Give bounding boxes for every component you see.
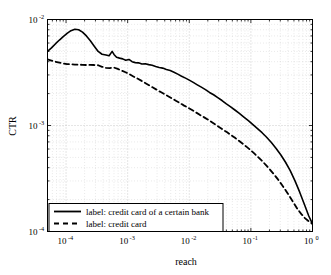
- svg-text:-4: -4: [68, 234, 74, 241]
- svg-text:10: 10: [29, 15, 39, 25]
- y-axis-title: CTR: [7, 116, 18, 136]
- svg-text:10: 10: [58, 236, 68, 246]
- legend-label-0: label: credit card of a certain bank: [86, 207, 209, 217]
- svg-text:-1: -1: [253, 234, 258, 241]
- figure-background: [0, 0, 331, 275]
- chart-legend: label: credit card of a certain bank lab…: [49, 204, 223, 232]
- svg-text:10: 10: [119, 236, 129, 246]
- svg-text:-3: -3: [39, 119, 44, 126]
- svg-text:10: 10: [304, 236, 314, 246]
- svg-text:CTR: CTR: [7, 116, 18, 136]
- legend-label-1: label: credit card: [86, 219, 147, 229]
- svg-text:-2: -2: [191, 234, 196, 241]
- chart-figure: 10-410-310-210-110010-410-310-2 CTR reac…: [0, 0, 331, 275]
- svg-text:10: 10: [29, 121, 39, 131]
- svg-text:-2: -2: [39, 13, 44, 20]
- svg-text:10: 10: [181, 236, 191, 246]
- svg-text:-4: -4: [39, 225, 45, 232]
- chart-canvas: 10-410-310-210-110010-410-310-2 CTR reac…: [0, 0, 331, 275]
- x-axis-title: reach: [175, 256, 197, 267]
- svg-text:reach: reach: [175, 256, 197, 267]
- svg-text:10: 10: [29, 227, 39, 237]
- svg-text:-3: -3: [130, 234, 135, 241]
- svg-text:10: 10: [242, 236, 252, 246]
- svg-text:0: 0: [315, 234, 318, 241]
